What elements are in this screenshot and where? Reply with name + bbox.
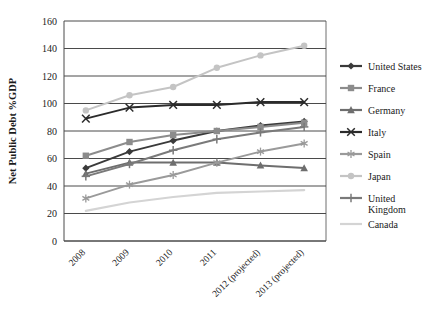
square-marker	[214, 128, 220, 134]
y-axis-ticks-group: 020406080100120140160	[42, 16, 57, 247]
x-tick-label: 2013 (projected)	[254, 247, 306, 299]
legend-item-france[interactable]: France	[340, 83, 396, 94]
legend-label: Spain	[368, 149, 391, 160]
y-tick-label: 60	[47, 153, 57, 164]
x-tick-label: 2009	[110, 247, 131, 268]
legend-label: United States	[368, 61, 422, 72]
y-tick-label: 20	[47, 208, 57, 219]
line-chart: 020406080100120140160Net Public Debt %GD…	[0, 0, 428, 321]
legend-item-united[interactable]: UnitedKingdom	[340, 193, 406, 215]
square-marker	[348, 85, 354, 91]
y-tick-label: 40	[47, 181, 57, 192]
square-marker	[170, 132, 176, 138]
legend-item-canada[interactable]: Canada	[340, 219, 399, 230]
circle-marker	[126, 92, 132, 98]
y-tick-label: 0	[52, 236, 57, 247]
legend-label: France	[368, 83, 396, 94]
cross-marker	[347, 194, 355, 202]
legend-item-italy[interactable]: Italy	[340, 127, 386, 138]
legend-label: Germany	[368, 105, 405, 116]
square-marker	[83, 153, 89, 159]
x-tick-label: 2008	[67, 247, 88, 268]
x-tick-label: 2010	[154, 247, 175, 268]
legend-item-spain[interactable]: Spain	[340, 149, 391, 160]
circle-marker	[348, 173, 354, 179]
legend-item-germany[interactable]: Germany	[340, 105, 405, 116]
circle-marker	[83, 107, 89, 113]
legend-label: Japan	[368, 171, 391, 182]
x-tick-label: 2011	[198, 247, 218, 267]
circle-marker	[257, 52, 263, 58]
legend-item-united-states[interactable]: United States	[340, 61, 422, 72]
y-axis-title: Net Public Debt %GDP	[7, 77, 18, 184]
x-axis-ticks-group: 20082009201020112012 (projected)2013 (pr…	[67, 247, 307, 300]
diamond-marker	[347, 62, 354, 69]
y-tick-label: 100	[42, 98, 57, 109]
legend-label: United	[368, 193, 395, 204]
chart-container: 020406080100120140160Net Public Debt %GD…	[0, 0, 428, 321]
legend-label: Italy	[368, 127, 386, 138]
y-tick-label: 80	[47, 126, 57, 137]
y-tick-label: 140	[42, 43, 57, 54]
y-tick-label: 160	[42, 16, 57, 27]
legend-label: Canada	[368, 219, 399, 230]
legend: United StatesFranceGermanyItalySpainJapa…	[340, 61, 422, 230]
circle-marker	[214, 65, 220, 71]
legend-item-japan[interactable]: Japan	[340, 171, 391, 182]
circle-marker	[170, 84, 176, 90]
legend-label-continued: Kingdom	[368, 204, 406, 215]
y-tick-label: 120	[42, 71, 57, 82]
circle-marker	[301, 43, 307, 49]
square-marker	[126, 139, 132, 145]
